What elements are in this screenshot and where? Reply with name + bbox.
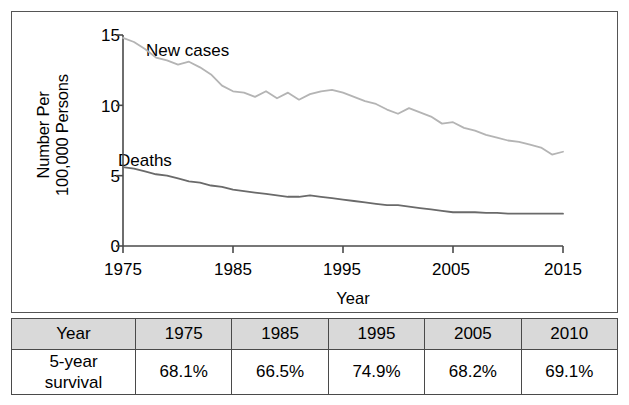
table-row-label-line2: survival (12, 372, 135, 393)
table-row-label: 5-year survival (12, 350, 136, 395)
table-header-cell-1995: 1995 (328, 319, 424, 350)
line-series-deaths (123, 167, 563, 213)
table-cell-survival-1985: 66.5% (232, 350, 328, 395)
chart-plot-area (12, 12, 617, 312)
table-header-cell-year: Year (12, 319, 136, 350)
table-header-cell-1985: 1985 (232, 319, 328, 350)
table-row-label-line1: 5-year (12, 351, 135, 372)
axes-group (116, 35, 563, 253)
table-body: 5-year survival 68.1% 66.5% 74.9% 68.2% … (12, 350, 618, 395)
table-row: 5-year survival 68.1% 66.5% 74.9% 68.2% … (12, 350, 618, 395)
chart-panel: Number Per 100,000 Persons 15 10 5 0 197… (11, 11, 618, 313)
table-header-cell-1975: 1975 (136, 319, 232, 350)
survival-table-wrap: Year 1975 1985 1995 2005 2010 5-year sur… (11, 318, 618, 395)
table-cell-survival-1995: 74.9% (328, 350, 424, 395)
table-header-cell-2010: 2010 (521, 319, 617, 350)
table-header-row: Year 1975 1985 1995 2005 2010 (12, 319, 618, 350)
table-header-cell-2005: 2005 (425, 319, 521, 350)
table-cell-survival-2010: 69.1% (521, 350, 617, 395)
table-head: Year 1975 1985 1995 2005 2010 (12, 319, 618, 350)
table-cell-survival-1975: 68.1% (136, 350, 232, 395)
survival-table: Year 1975 1985 1995 2005 2010 5-year sur… (11, 318, 618, 395)
figure-root: Number Per 100,000 Persons 15 10 5 0 197… (0, 0, 629, 405)
table-cell-survival-2005: 68.2% (425, 350, 521, 395)
line-series-new-cases (123, 38, 563, 155)
axis-ticks (116, 35, 563, 253)
